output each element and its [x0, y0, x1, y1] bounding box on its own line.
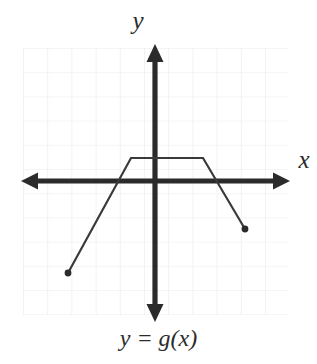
curve-endpoint-left	[65, 270, 72, 277]
figure-container: y x y = g(x)	[0, 0, 317, 364]
curve-endpoint-right	[242, 226, 249, 233]
figure-caption: y = g(x)	[0, 326, 317, 350]
y-axis-label: y	[123, 8, 153, 33]
x-axis-label: x	[292, 147, 316, 172]
graph-canvas	[0, 0, 317, 364]
